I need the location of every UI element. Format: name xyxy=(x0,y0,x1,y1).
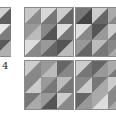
half-square-triangle-cell xyxy=(76,8,92,24)
half-square-triangle-cell xyxy=(0,40,11,56)
half-square-triangle-cell xyxy=(41,93,57,109)
half-square-triangle-cell xyxy=(108,24,116,40)
half-square-triangle-cell xyxy=(108,77,116,93)
half-square-triangle-cell xyxy=(57,40,73,56)
half-square-triangle-cell xyxy=(41,77,57,93)
half-square-triangle-cell xyxy=(92,93,108,109)
half-square-triangle-cell xyxy=(92,77,108,93)
half-square-triangle-cell xyxy=(25,93,41,109)
partial-grid-left-container xyxy=(0,7,11,57)
half-square-triangle-cell xyxy=(92,8,108,24)
half-square-triangle-cell xyxy=(41,8,57,24)
half-square-triangle-cell xyxy=(108,93,116,109)
triangle-grid-partial-left xyxy=(0,7,11,57)
half-square-triangle-cell xyxy=(92,61,108,77)
half-square-triangle-cell xyxy=(57,77,73,93)
half-square-triangle-cell xyxy=(76,40,92,56)
half-square-triangle-cell xyxy=(41,24,57,40)
half-square-triangle-cell xyxy=(108,61,116,77)
half-square-triangle-cell xyxy=(0,8,11,24)
half-square-triangle-cell xyxy=(25,61,41,77)
half-square-triangle-cell xyxy=(76,24,92,40)
triangle-grid-top-right xyxy=(75,7,116,57)
half-square-triangle-cell xyxy=(41,61,57,77)
half-square-triangle-cell xyxy=(25,77,41,93)
half-square-triangle-cell xyxy=(108,40,116,56)
half-square-triangle-cell xyxy=(76,77,92,93)
half-square-triangle-cell xyxy=(92,40,108,56)
half-square-triangle-cell xyxy=(57,93,73,109)
triangle-grid-bottom-right xyxy=(75,60,116,110)
triangle-grid-bottom-left xyxy=(24,60,74,110)
half-square-triangle-cell xyxy=(25,8,41,24)
half-square-triangle-cell xyxy=(57,8,73,24)
half-square-triangle-cell xyxy=(92,24,108,40)
triangle-grid-top-left xyxy=(24,7,74,57)
half-square-triangle-cell xyxy=(76,61,92,77)
panel-label: 4 xyxy=(2,61,8,71)
half-square-triangle-cell xyxy=(41,40,57,56)
half-square-triangle-cell xyxy=(0,24,11,40)
half-square-triangle-cell xyxy=(25,24,41,40)
half-square-triangle-cell xyxy=(108,8,116,24)
half-square-triangle-cell xyxy=(57,24,73,40)
half-square-triangle-cell xyxy=(57,61,73,77)
half-square-triangle-cell xyxy=(25,40,41,56)
half-square-triangle-cell xyxy=(76,93,92,109)
